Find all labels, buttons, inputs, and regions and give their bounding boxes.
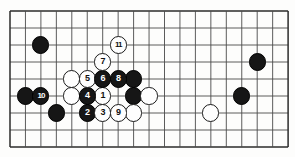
black-stone-upper-left[interactable] xyxy=(32,36,49,53)
stone-label: 5 xyxy=(85,74,90,83)
black-stone-right-of-eight[interactable] xyxy=(125,70,142,87)
move-11[interactable]: 11 xyxy=(110,36,127,53)
stone-label: 9 xyxy=(116,108,121,117)
stone-label: 6 xyxy=(100,74,105,83)
stone-label: 10 xyxy=(37,92,44,100)
go-diagram: 1234567891011 xyxy=(0,0,295,157)
move-9[interactable]: 9 xyxy=(110,104,127,121)
black-stone-far-right-mid[interactable] xyxy=(233,87,250,104)
move-7[interactable]: 7 xyxy=(94,53,111,70)
move-8[interactable]: 8 xyxy=(110,70,127,87)
white-stone-left-mid[interactable] xyxy=(63,87,80,104)
stone-label: 2 xyxy=(85,108,90,117)
move-6[interactable]: 6 xyxy=(94,70,111,87)
white-stone-lower-right[interactable] xyxy=(202,104,219,121)
stone-label: 7 xyxy=(100,57,105,66)
black-stone-far-right-upper[interactable] xyxy=(249,53,266,70)
stone-label: 1 xyxy=(100,91,105,100)
stone-label: 11 xyxy=(115,41,121,49)
white-stone-center-right[interactable] xyxy=(140,87,157,104)
stone-label: 4 xyxy=(85,91,90,100)
move-10[interactable]: 10 xyxy=(32,87,49,104)
white-stone-lower-center[interactable] xyxy=(125,104,142,121)
black-stone-lower-left[interactable] xyxy=(48,104,65,121)
move-3[interactable]: 3 xyxy=(94,104,111,121)
board-grid xyxy=(0,0,295,157)
stone-label: 3 xyxy=(100,108,105,117)
stone-label: 8 xyxy=(116,74,121,83)
move-1[interactable]: 1 xyxy=(94,87,111,104)
move-4[interactable]: 4 xyxy=(79,87,96,104)
white-stone-upper[interactable] xyxy=(63,70,80,87)
